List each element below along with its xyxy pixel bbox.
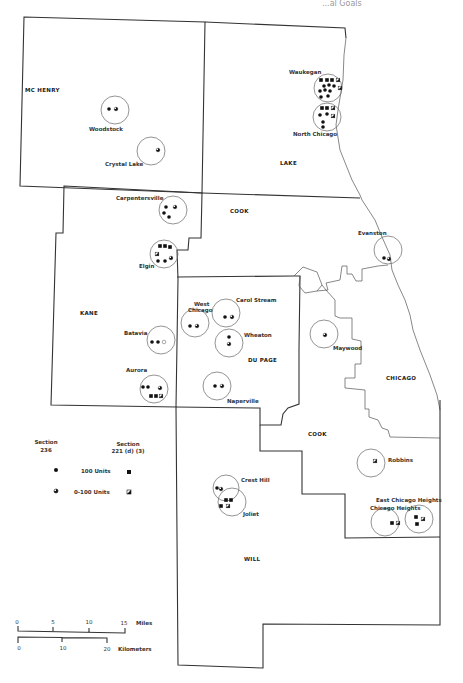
legend: Section 236 Section 221 (d) (3) 100 Unit… (34, 439, 145, 495)
unit-dot-full-icon (156, 340, 160, 344)
unit-square-partial-icon (396, 521, 400, 525)
unit-square-partial-icon (421, 517, 425, 521)
city-label: Aurora (126, 367, 147, 373)
unit-square-partial-icon (373, 459, 377, 463)
city-wheaton: Wheaton (215, 329, 272, 357)
unit-dot-partial-icon (230, 315, 234, 319)
city-north-chicago: North Chicago (293, 103, 341, 138)
city-radius-ring (140, 375, 168, 403)
city-label: Crest Hill (241, 477, 270, 483)
unit-square-full-icon (158, 244, 162, 248)
city-carpentersville: Carpentersville (116, 195, 187, 224)
city-radius-ring (203, 372, 231, 400)
unit-dot-full-icon (332, 84, 336, 88)
city-label: Chicago (188, 307, 213, 314)
city-batavia: Batavia (124, 326, 175, 354)
unit-square-full-icon (319, 78, 323, 82)
unit-dot-partial-icon (156, 148, 160, 152)
unit-dot-partial-icon (220, 384, 224, 388)
unit-dot-full-icon (382, 256, 386, 260)
unit-square-partial-icon (159, 394, 163, 398)
miles-scale-bar (18, 626, 125, 633)
chicago-city-boundary (294, 265, 440, 438)
km-tick-20: 20 (104, 646, 111, 652)
city-crystal-lake: Crystal Lake (105, 137, 165, 168)
miles-tick-0: 0 (15, 619, 19, 625)
city-label: East Chicago Heights (376, 497, 442, 504)
city-label: Robbins (388, 457, 414, 463)
unit-square-full-icon (390, 521, 394, 525)
unit-dot-full-icon (162, 211, 166, 215)
city-maywood: Maywood (310, 320, 362, 352)
city-label: Elgin (139, 263, 154, 270)
legend-row2-label: 0-100 Units (74, 489, 110, 495)
unit-dot-full-icon (167, 215, 171, 219)
city-label: Evanston (358, 230, 387, 236)
city-radius-ring (212, 299, 240, 327)
county-label-chicago: CHICAGO (386, 375, 416, 381)
km-scale-bar (18, 637, 107, 643)
city-waukegan: Waukegan (289, 69, 342, 102)
county-boundary-cook-south (260, 425, 440, 538)
unit-square-full-icon (149, 394, 153, 398)
city-label: Wheaton (244, 332, 272, 338)
county-label-will: WILL (244, 556, 261, 562)
city-radius-ring (218, 488, 246, 516)
city-joliet: Joliet (218, 488, 259, 518)
legend-col1-title-2: 236 (40, 447, 52, 453)
unit-dot-partial-icon (227, 342, 231, 346)
unit-square-partial-icon (336, 78, 340, 82)
city-label: North Chicago (293, 131, 337, 138)
legend-square-full-icon (127, 470, 131, 474)
unit-square-partial-icon (338, 86, 342, 90)
legend-col2-title-1: Section (116, 441, 139, 447)
unit-square-partial-icon (331, 114, 335, 118)
unit-square-full-icon (325, 106, 329, 110)
city-radius-ring (181, 309, 209, 337)
unit-dot-partial-icon (114, 107, 118, 111)
miles-tick-15: 15 (121, 620, 128, 626)
unit-square-full-icon (415, 522, 419, 526)
unit-dot-full-icon (328, 89, 332, 93)
unit-dot-full-icon (213, 384, 217, 388)
unit-square-full-icon (224, 498, 228, 502)
legend-dot-full-icon (54, 468, 58, 472)
city-label: Waukegan (289, 69, 321, 76)
header-fragment: ...al Goals (322, 0, 362, 8)
unit-dot-partial-icon (387, 257, 391, 261)
unit-dot-full-icon (325, 112, 329, 116)
lake-michigan-shoreline (336, 38, 440, 410)
city-radius-ring (147, 326, 175, 354)
unit-dot-full-icon (227, 335, 231, 339)
city-crest-hill: Crest Hill (213, 475, 270, 501)
unit-dot-full-icon (327, 83, 331, 87)
unit-dot-full-icon (321, 125, 325, 129)
city-robbins: Robbins (357, 449, 414, 477)
unit-dot-full-icon (321, 120, 325, 124)
county-boundary-lake-south (202, 193, 360, 198)
county-label-du-page: DU PAGE (248, 357, 277, 363)
unit-square-full-icon (163, 244, 167, 248)
cities-layer: WoodstockCrystal LakeWaukeganNorth Chica… (89, 69, 442, 536)
unit-dot-partial-icon (158, 386, 162, 390)
miles-tick-5: 5 (51, 619, 55, 625)
legend-row1-label: 100 Units (81, 468, 111, 474)
km-tick-10: 10 (60, 645, 67, 651)
unit-dot-full-icon (141, 385, 145, 389)
unit-square-partial-icon (331, 106, 335, 110)
city-radius-ring (371, 508, 399, 536)
unit-square-full-icon (330, 78, 334, 82)
unit-dot-empty-icon (162, 340, 166, 344)
city-label: Naperville (227, 398, 259, 405)
city-naperville: Naperville (203, 372, 259, 405)
map-canvas: ...al Goals WoodstockCrystal LakeWaukega… (0, 0, 463, 683)
city-label: Crystal Lake (105, 161, 143, 168)
county-boundary-kane (51, 186, 202, 407)
unit-dot-full-icon (323, 88, 327, 92)
unit-dot-full-icon (215, 486, 219, 490)
unit-square-partial-icon (226, 504, 230, 508)
unit-square-full-icon (154, 394, 158, 398)
unit-dot-partial-icon (173, 205, 177, 209)
unit-square-full-icon (168, 245, 172, 249)
unit-dot-full-icon (223, 315, 227, 319)
